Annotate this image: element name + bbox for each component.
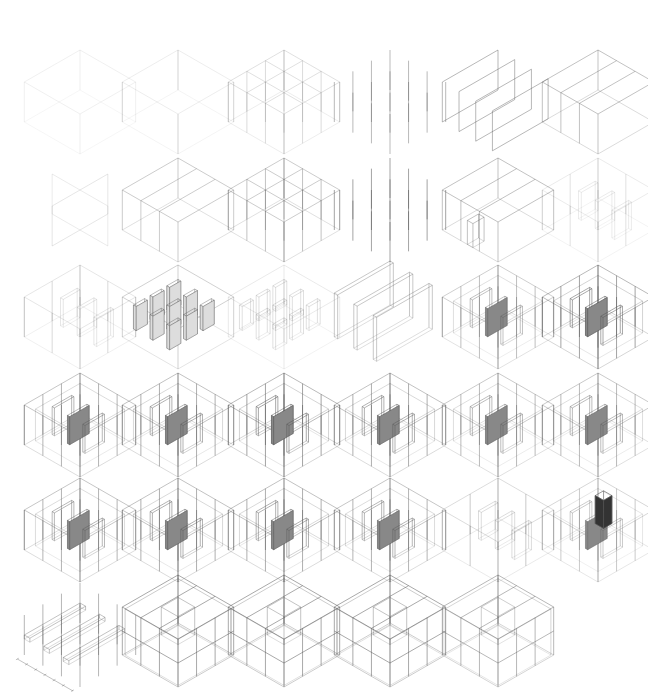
isometric-drawing-icon: [30, 250, 130, 360]
isometric-drawing-icon: [128, 250, 228, 360]
diagram-panel: [234, 568, 334, 678]
isometric-drawing-icon: [30, 143, 130, 253]
isometric-drawing-icon: [30, 35, 130, 145]
diagram-panel: [448, 143, 548, 253]
diagram-panel: [448, 35, 548, 145]
isometric-drawing-icon: [30, 358, 130, 468]
isometric-drawing-icon: [340, 35, 440, 145]
isometric-drawing-icon: [548, 35, 648, 145]
diagram-panel: [30, 143, 130, 253]
diagram-panel: [448, 463, 548, 573]
isometric-drawing-icon: [234, 35, 334, 145]
isometric-drawing-icon: [340, 250, 440, 360]
isometric-drawing-icon: [448, 568, 548, 678]
diagram-panel: [234, 35, 334, 145]
diagram-panel: [234, 358, 334, 468]
isometric-drawing-icon: [234, 143, 334, 253]
isometric-drawing-icon: [448, 143, 548, 253]
diagram-panel: [548, 463, 648, 573]
diagram-panel: [128, 35, 228, 145]
diagram-panel: [30, 568, 130, 678]
isometric-drawing-icon: [548, 358, 648, 468]
diagram-panel: [448, 358, 548, 468]
isometric-drawing-icon: [128, 463, 228, 573]
isometric-drawing-icon: [340, 358, 440, 468]
diagram-panel: [30, 35, 130, 145]
diagram-panel: [234, 463, 334, 573]
isometric-drawing-icon: [234, 568, 334, 678]
diagram-panel: [30, 250, 130, 360]
isometric-drawing-icon: [234, 463, 334, 573]
isometric-drawing-icon: [448, 463, 548, 573]
diagram-panel: [340, 568, 440, 678]
diagram-panel: [30, 358, 130, 468]
isometric-drawing-icon: [548, 143, 648, 253]
diagram-panel: [234, 143, 334, 253]
diagram-panel: [128, 463, 228, 573]
isometric-drawing-icon: [340, 568, 440, 678]
isometric-drawing-icon: [234, 358, 334, 468]
isometric-drawing-icon: [448, 250, 548, 360]
diagram-panel: [548, 143, 648, 253]
diagram-panel: [548, 358, 648, 468]
diagram-panel: [448, 250, 548, 360]
isometric-drawing-icon: [340, 463, 440, 573]
isometric-drawing-icon: [548, 463, 648, 573]
diagram-panel: [340, 143, 440, 253]
isometric-drawing-icon: [30, 463, 130, 573]
diagram-panel: [128, 358, 228, 468]
isometric-drawing-icon: [128, 35, 228, 145]
isometric-drawing-icon: [448, 35, 548, 145]
diagram-panel: [234, 250, 334, 360]
diagram-panel: [548, 250, 648, 360]
isometric-drawing-icon: [128, 568, 228, 678]
diagram-panel: [448, 568, 548, 678]
diagram-panel: [128, 568, 228, 678]
diagram-panel: [340, 35, 440, 145]
isometric-drawing-icon: [234, 250, 334, 360]
isometric-drawing-icon: [128, 143, 228, 253]
diagram-panel: [340, 463, 440, 573]
isometric-drawing-icon: [340, 143, 440, 253]
diagram-panel: [30, 463, 130, 573]
isometric-drawing-icon: [30, 568, 130, 678]
isometric-drawing-icon: [548, 250, 648, 360]
isometric-drawing-icon: [448, 358, 548, 468]
diagram-panel: [128, 250, 228, 360]
diagram-panel: [128, 143, 228, 253]
diagram-panel: [548, 35, 648, 145]
isometric-drawing-icon: [128, 358, 228, 468]
diagram-panel: [340, 250, 440, 360]
diagram-panel: [340, 358, 440, 468]
